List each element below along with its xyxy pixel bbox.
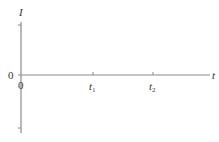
axes-diagram: I t 0 0 t1 t2 [0,0,219,142]
y-axis-label: I [18,6,24,18]
origin-label-left: 0 [8,69,14,81]
x-axis-label: t [212,69,216,81]
origin-label-below: 0 [18,79,24,91]
tick-label-t1: t1 [89,80,96,94]
tick-label-t2: t2 [149,80,156,94]
